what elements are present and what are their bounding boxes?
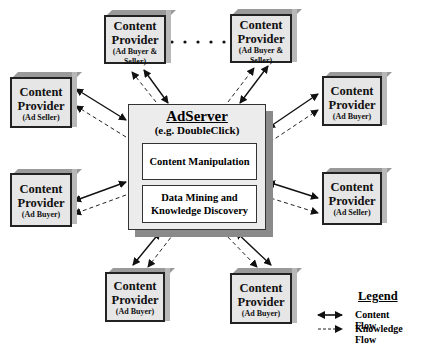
- cp-role: (Ad Buyer): [324, 112, 380, 122]
- cp-title: Content Provider: [106, 19, 164, 47]
- cp-title: Content Provider: [12, 85, 70, 113]
- adserver-title: AdServer: [129, 108, 265, 124]
- cp-role: (Ad Buyer & Seller): [106, 47, 164, 67]
- cp-role: (Ad Buyer & Seller): [232, 46, 290, 66]
- cp-title: Content Provider: [324, 84, 380, 112]
- content-provider-bottom-left: Content Provider (Ad Buyer): [105, 272, 165, 322]
- cp-title: Content Provider: [324, 180, 380, 208]
- legend-knowledge-flow-label: Knowledge Flow: [355, 323, 403, 345]
- cp-role: (Ad Buyer): [12, 210, 70, 220]
- adserver-subtitle: (e.g. DoubleClick): [129, 124, 265, 136]
- cp-3d-edge: [72, 169, 77, 224]
- data-mining-module: Data Mining and Knowledge Discovery: [142, 185, 257, 223]
- cp-3d-edge: [72, 72, 77, 127]
- content-provider-right-upper: Content Provider (Ad Buyer): [322, 76, 382, 126]
- cp-role: (Ad Seller): [324, 208, 380, 218]
- content-manipulation-module: Content Manipulation: [142, 143, 257, 180]
- content-provider-top-right: Content Provider (Ad Buyer & Seller): [230, 14, 292, 63]
- cp-3d-edge: [166, 10, 171, 63]
- cp-3d-edge: [292, 268, 297, 323]
- content-provider-left-upper: Content Provider (Ad Seller): [10, 77, 72, 128]
- cp-title: Content Provider: [107, 279, 163, 307]
- content-provider-left-lower: Content Provider (Ad Buyer): [10, 173, 72, 227]
- cp-3d-edge: [382, 168, 387, 223]
- ellipsis-dots: [170, 40, 225, 43]
- content-provider-bottom-right: Content Provider (Ad Buyer): [230, 273, 292, 324]
- legend-title: Legend: [358, 289, 398, 304]
- cp-role: (Ad Buyer): [107, 307, 163, 317]
- cp-role: (Ad Buyer): [232, 309, 290, 319]
- cp-title: Content Provider: [232, 281, 290, 309]
- cp-title: Content Provider: [232, 18, 290, 46]
- cp-3d-edge: [382, 72, 387, 125]
- cp-role: (Ad Seller): [12, 113, 70, 123]
- content-provider-top-left: Content Provider (Ad Buyer & Seller): [104, 15, 166, 64]
- content-provider-right-lower: Content Provider (Ad Seller): [322, 172, 382, 225]
- cp-3d-edge: [292, 9, 297, 62]
- cp-3d-edge: [165, 268, 170, 321]
- cp-title: Content Provider: [12, 182, 70, 210]
